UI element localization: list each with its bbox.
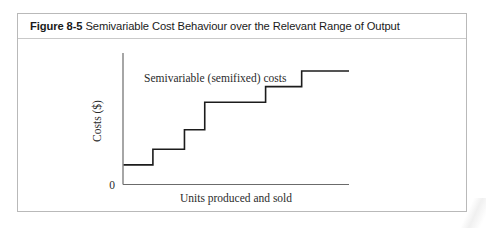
figure-header: Figure 8-5 Semivariable Cost Behaviour o… xyxy=(18,14,466,39)
figure-box: Figure 8-5 Semivariable Cost Behaviour o… xyxy=(17,13,467,212)
chart-plot-area: 0 Costs ($) Units produced and sold Semi… xyxy=(18,39,466,212)
figure-number-label: Figure 8-5 xyxy=(30,20,82,32)
step-cost-line xyxy=(124,71,349,165)
y-axis-label: Costs ($) xyxy=(91,100,104,142)
semivariable-cost-step-chart: 0 Costs ($) Units produced and sold Semi… xyxy=(18,39,468,212)
figure-title: Figure 8-5 Semivariable Cost Behaviour o… xyxy=(18,20,400,32)
series-annotation-label: Semivariable (semifixed) costs xyxy=(144,72,287,85)
x-axis-label: Units produced and sold xyxy=(180,192,292,205)
origin-tick-label: 0 xyxy=(109,179,115,191)
figure-title-rest: Semivariable Cost Behaviour over the Rel… xyxy=(85,20,399,32)
